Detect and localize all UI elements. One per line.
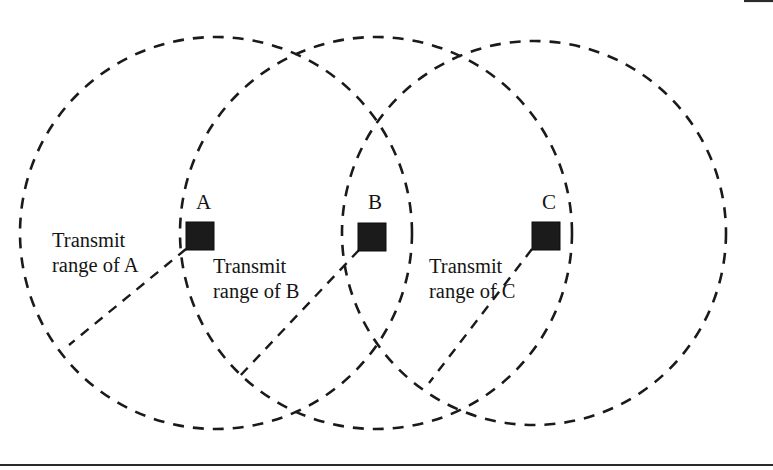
transmit-range-label-a-line2: range of A bbox=[52, 253, 139, 278]
node-label-c: C bbox=[542, 192, 556, 213]
transmit-range-label-b-line2: range of B bbox=[213, 279, 300, 304]
node-square-b bbox=[358, 223, 386, 251]
transmit-range-label-b-line1: Transmit bbox=[213, 254, 300, 279]
node-square-a bbox=[186, 222, 214, 250]
transmit-range-label-c-line2: range of C bbox=[429, 279, 516, 304]
transmit-range-label-b: Transmit range of B bbox=[213, 254, 300, 304]
node-label-b: B bbox=[368, 192, 382, 213]
transmit-range-label-a-line1: Transmit bbox=[52, 228, 139, 253]
transmit-range-label-c-line1: Transmit bbox=[429, 254, 516, 279]
figure-root: A B C Transmit range of A Transmit range… bbox=[0, 0, 773, 470]
transmit-range-label-a: Transmit range of A bbox=[52, 228, 139, 278]
node-square-c bbox=[532, 222, 560, 250]
transmit-range-label-c: Transmit range of C bbox=[429, 254, 516, 304]
node-label-a: A bbox=[196, 192, 211, 213]
